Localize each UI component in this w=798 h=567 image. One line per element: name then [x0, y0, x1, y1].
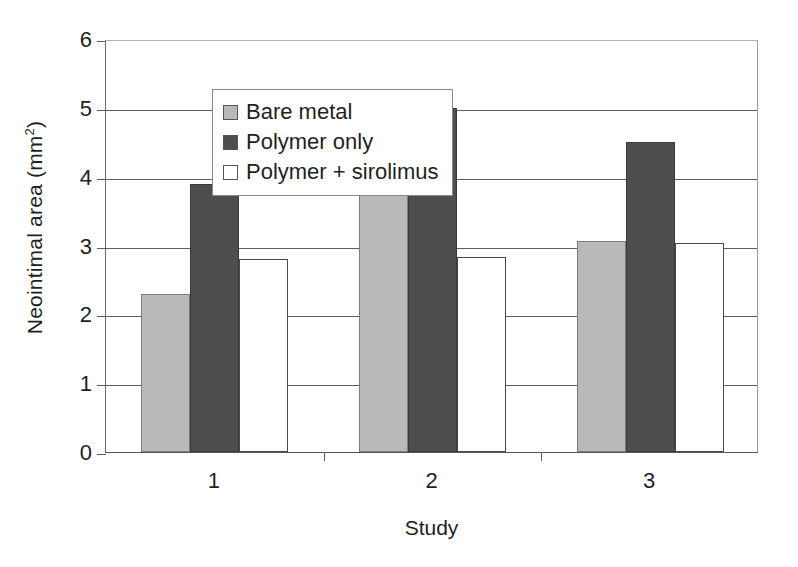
x-axis-tick-labels: 123: [105, 468, 758, 498]
bar: [675, 243, 724, 452]
bar: [190, 184, 239, 452]
y-axis-tick: [97, 454, 106, 455]
x-axis-tick-label: 2: [402, 468, 462, 494]
y-axis-tick: [97, 110, 106, 111]
y-axis-tick: [97, 179, 106, 180]
y-axis-title-base: Neointimal area (mm: [23, 135, 46, 334]
bar: [577, 241, 626, 452]
y-axis-tick-label: 3: [52, 234, 92, 260]
y-axis-title-tail: ): [23, 121, 46, 128]
bar-chart-figure: Neointimal area (mm2) 0123456 Bare metal…: [0, 0, 798, 567]
x-axis-separator: [324, 452, 325, 461]
y-axis-tick-label: 6: [52, 27, 92, 53]
x-axis-tick-label: 1: [184, 468, 244, 494]
y-axis-tick-label: 4: [52, 165, 92, 191]
bar: [626, 142, 675, 452]
legend: Bare metalPolymer onlyPolymer + sirolimu…: [212, 89, 453, 196]
y-axis-tick: [97, 316, 106, 317]
y-axis-title: Neointimal area (mm2): [22, 28, 47, 428]
legend-item: Polymer + sirolimus: [223, 157, 439, 187]
x-axis-tick-label: 3: [619, 468, 679, 494]
plot-area: Bare metalPolymer onlyPolymer + sirolimu…: [105, 40, 758, 453]
legend-label: Polymer only: [246, 129, 373, 155]
legend-swatch-icon: [223, 135, 238, 150]
x-axis-separator: [541, 452, 542, 461]
bar: [457, 257, 506, 452]
legend-item: Polymer only: [223, 127, 439, 157]
legend-item: Bare metal: [223, 97, 439, 127]
y-axis-tick: [97, 385, 106, 386]
legend-swatch-icon: [223, 105, 238, 120]
legend-label: Polymer + sirolimus: [246, 159, 439, 185]
legend-swatch-icon: [223, 165, 238, 180]
y-axis-tick-label: 5: [52, 96, 92, 122]
x-axis-title: Study: [105, 516, 758, 540]
y-axis-tick-label: 2: [52, 302, 92, 328]
y-axis-title-superscript: 2: [22, 128, 37, 135]
y-axis-tick: [97, 248, 106, 249]
bar: [141, 294, 190, 452]
y-axis-tick-label: 1: [52, 371, 92, 397]
y-axis-tick-labels: 0123456: [48, 40, 92, 453]
bar: [239, 259, 288, 452]
y-axis-tick: [97, 41, 106, 42]
legend-label: Bare metal: [246, 99, 352, 125]
y-axis-tick-label: 0: [52, 440, 92, 466]
